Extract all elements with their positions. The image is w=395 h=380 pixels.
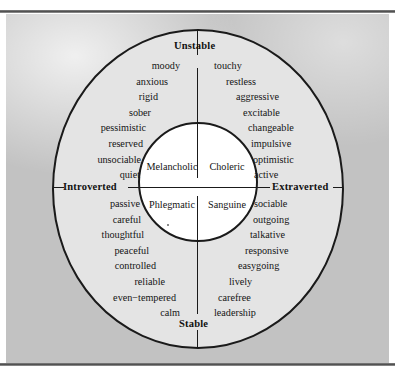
trait-word: peaceful	[58, 243, 180, 259]
vertical-axis-segment-bottom	[197, 330, 198, 348]
trait-word: reserved	[58, 136, 180, 152]
trait-word: easygoing	[214, 258, 336, 274]
trait-word: sober	[58, 105, 180, 121]
horizontal-axis-segment-left	[128, 187, 200, 188]
trait-word: even−tempered	[58, 290, 180, 306]
trait-word: responsive	[214, 243, 336, 259]
trait-word: pessimistic	[58, 120, 180, 136]
scan-artifact-speck	[167, 224, 169, 226]
trait-word: thoughtful	[58, 227, 180, 243]
trait-word: lively	[214, 274, 336, 290]
horizontal-axis-segment-far-right	[333, 187, 343, 188]
top-divider-rule	[0, 10, 395, 13]
trait-word: impulsive	[214, 136, 336, 152]
trait-word: rigid	[58, 89, 180, 105]
horizontal-axis-segment-right	[197, 187, 270, 188]
bottom-divider-rule	[0, 363, 395, 366]
axis-label-unstable: Unstable	[174, 40, 215, 51]
traits-stable-introverted: passive careful thoughtful peaceful cont…	[58, 196, 180, 321]
axis-label-stable: Stable	[179, 318, 208, 329]
trait-word: careful	[58, 212, 180, 228]
trait-word: aggressive	[214, 89, 336, 105]
temperament-label-phlegmatic: Phlegmatic	[144, 199, 200, 210]
trait-word: excitable	[214, 105, 336, 121]
trait-word: anxious	[58, 74, 180, 90]
temperament-label-sanguine: Sanguine	[199, 199, 255, 210]
trait-word: outgoing	[214, 212, 336, 228]
trait-word: controlled	[58, 258, 180, 274]
trait-word: leadership	[214, 305, 336, 321]
traits-stable-extraverted: sociable outgoing talkative responsive e…	[214, 196, 336, 321]
trait-word: restless	[214, 74, 336, 90]
trait-word: carefree	[214, 290, 336, 306]
trait-word: changeable	[214, 120, 336, 136]
vertical-axis-segment-lower	[197, 196, 198, 314]
trait-word: reliable	[58, 274, 180, 290]
trait-word: moody	[58, 58, 180, 74]
temperament-label-choleric: Choleric	[199, 161, 255, 172]
trait-word: calm	[58, 305, 180, 321]
trait-word: talkative	[214, 227, 336, 243]
eysenck-personality-diagram: Unstable Stable Introverted Extraverted …	[0, 0, 395, 380]
trait-word: touchy	[214, 58, 336, 74]
temperament-label-melancholic: Melancholic	[144, 161, 200, 172]
